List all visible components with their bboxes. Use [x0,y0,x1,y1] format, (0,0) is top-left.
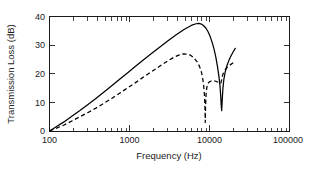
y-tick-label-20: 20 [35,69,45,79]
x-axis-title: Frequency (Hz) [136,150,201,161]
transmission-loss-dashed-curve [50,54,236,131]
y-axis-ticks [50,17,290,131]
y-tick-label-10: 10 [35,98,45,108]
x-tick-label-10000: 10000 [197,135,222,145]
x-axis-minor-ticks [74,17,286,131]
transmission-loss-figure: 0 10 20 30 40 100 1000 10000 100000 Freq… [0,0,311,172]
y-tick-label-30: 30 [35,40,45,50]
axes-frame [50,17,290,132]
x-tick-label-100000: 100000 [273,135,303,145]
transmission-loss-chart: 0 10 20 30 40 100 1000 10000 100000 Freq… [0,0,311,172]
x-axis-major-ticks [50,17,290,131]
y-axis-title: Transmission Loss (dB) [5,24,16,123]
x-tick-label-1000: 1000 [119,135,139,145]
x-tick-label-100: 100 [42,135,57,145]
y-tick-label-40: 40 [35,12,45,22]
